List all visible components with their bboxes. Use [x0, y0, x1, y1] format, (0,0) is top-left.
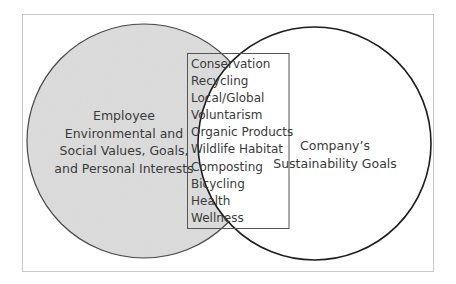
left-label-line: Environmental and: [44, 125, 204, 143]
overlap-item: Composting: [191, 159, 293, 176]
overlap-item: Organic Products: [191, 124, 293, 141]
overlap-item: Wildlife Habitat: [191, 141, 293, 158]
left-label-line: Social Values, Goals,: [44, 142, 204, 160]
overlap-item: Wellness: [191, 210, 293, 227]
overlap-item: Conservation: [191, 56, 293, 73]
overlap-item: Voluntarism: [191, 107, 293, 124]
overlap-item: Local/Global: [191, 90, 293, 107]
left-label-line: Employee: [44, 107, 204, 125]
overlap-items-list: Conservation Recycling Local/Global Volu…: [191, 56, 293, 227]
left-label-line: and Personal Interests: [44, 160, 204, 178]
employee-values-label: Employee Environmental and Social Values…: [44, 107, 204, 177]
overlap-item: Recycling: [191, 73, 293, 90]
overlap-item: Bicycling: [191, 176, 293, 193]
overlap-item: Health: [191, 193, 293, 210]
